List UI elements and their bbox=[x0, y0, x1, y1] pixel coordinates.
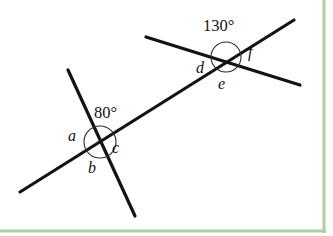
geometry-diagram-canvas bbox=[0, 0, 333, 236]
angle-label-d: d bbox=[196, 60, 204, 76]
angle-label-b: b bbox=[88, 160, 96, 176]
angle-label-c: c bbox=[112, 140, 119, 156]
angle-measure-130: 130° bbox=[203, 18, 234, 35]
angle-measure-80: 80° bbox=[94, 105, 117, 122]
line-lower-steep bbox=[68, 70, 135, 216]
geometry-figure: a b c 80° d e f 130° bbox=[0, 0, 333, 236]
angle-label-f: f bbox=[248, 44, 252, 60]
angle-label-a: a bbox=[68, 128, 76, 144]
line-transversal bbox=[20, 20, 294, 192]
angle-label-e: e bbox=[218, 76, 225, 92]
